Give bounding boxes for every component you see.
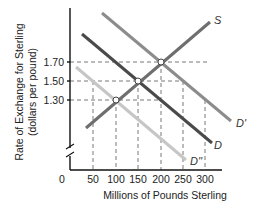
curve-s xyxy=(86,22,210,128)
x-tick-label-200: 200 xyxy=(152,173,170,185)
y-axis-title-line2: (dollars per pound) xyxy=(26,48,38,136)
curve-label-s: S xyxy=(214,14,222,26)
x-tick-label-150: 150 xyxy=(129,173,147,185)
x-tick-label-100: 100 xyxy=(107,173,125,185)
x-tick-label-50: 50 xyxy=(87,173,99,185)
exchange-rate-chart: 1.70 1.50 1.30 0 50 100 150 200 250 300 … xyxy=(0,0,264,212)
y-tick-label-150: 1.50 xyxy=(44,75,65,87)
y-tick-label-130: 1.30 xyxy=(44,94,65,106)
x-axis-title: Millions of Pounds Sterling xyxy=(103,189,227,201)
equilibrium-s-d xyxy=(135,78,141,84)
y-axis-title-line1: Rate of Exchange for Sterling xyxy=(13,23,25,160)
curve-label-d-double-prime: D'' xyxy=(190,155,203,167)
x-tick-label-0: 0 xyxy=(59,173,65,185)
equilibrium-s-d-double-prime xyxy=(113,97,119,103)
equilibrium-s-d-prime xyxy=(158,59,164,65)
y-tick-label-170: 1.70 xyxy=(44,56,65,68)
curve-label-d: D xyxy=(214,139,222,151)
x-tick-label-250: 250 xyxy=(174,173,192,185)
curves xyxy=(76,13,231,160)
x-tick-label-300: 300 xyxy=(196,173,214,185)
curve-label-d-prime: D' xyxy=(236,117,247,129)
axis-break-icon xyxy=(66,144,74,157)
